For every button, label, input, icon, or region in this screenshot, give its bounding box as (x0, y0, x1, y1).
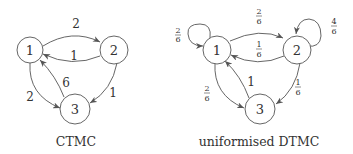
node-label-ctmc-3: 3 (71, 102, 79, 117)
caption-dtmc: uniformised DTMC (199, 134, 320, 149)
svg-text:6: 6 (204, 94, 209, 103)
edge-label-dtmc-1-3: 2 6 (204, 84, 210, 103)
edge-ctmc-1-3 (30, 63, 60, 108)
node-label-dtmc-1: 1 (213, 43, 221, 58)
caption-ctmc: CTMC (56, 134, 96, 149)
svg-text:6: 6 (256, 50, 261, 59)
edge-label-ctmc-1-3: 2 (26, 90, 34, 104)
edge-label-ctmc-2-3: 1 (109, 86, 117, 100)
svg-text:1: 1 (295, 78, 300, 87)
edge-dtmc-3-1 (225, 61, 249, 98)
edge-label-dtmc-1-2: 2 6 (256, 7, 262, 26)
edge-dtmc-1-3 (215, 63, 244, 108)
svg-text:6: 6 (295, 88, 300, 97)
ctmc-diagram: 1 2 3 2 1 1 6 2 CTMC (17, 17, 128, 149)
edge-ctmc-3-1 (40, 60, 64, 97)
svg-text:1: 1 (256, 40, 261, 49)
edge-label-dtmc-2-3: 1 6 (295, 78, 301, 97)
node-label-ctmc-1: 1 (26, 43, 34, 58)
node-label-dtmc-3: 3 (256, 102, 264, 117)
edge-label-dtmc-2-2: 4 6 (331, 17, 337, 36)
svg-text:6: 6 (175, 35, 180, 44)
svg-text:2: 2 (175, 26, 180, 35)
svg-text:2: 2 (204, 84, 209, 93)
edge-label-dtmc-2-1: 1 6 (256, 40, 262, 59)
svg-text:6: 6 (256, 17, 261, 26)
node-label-dtmc-2: 2 (293, 43, 301, 58)
edge-label-ctmc-2-1: 1 (70, 49, 78, 63)
dtmc-diagram: 1 2 3 2 6 2 6 1 6 4 6 1 6 1 (175, 7, 337, 149)
svg-text:4: 4 (331, 17, 336, 26)
edge-label-ctmc-1-2: 2 (72, 17, 80, 31)
svg-text:6: 6 (331, 27, 336, 36)
node-label-ctmc-2: 2 (110, 43, 118, 58)
markov-chain-figure: 1 2 3 2 1 1 6 2 CTMC 1 2 3 2 6 (0, 0, 353, 154)
edge-label-dtmc-3-1: 1 (247, 75, 255, 89)
edge-label-dtmc-1-1: 2 6 (175, 26, 181, 44)
edge-label-ctmc-3-1: 6 (62, 76, 70, 90)
edge-ctmc-1-2 (43, 36, 100, 46)
svg-text:2: 2 (256, 7, 261, 16)
